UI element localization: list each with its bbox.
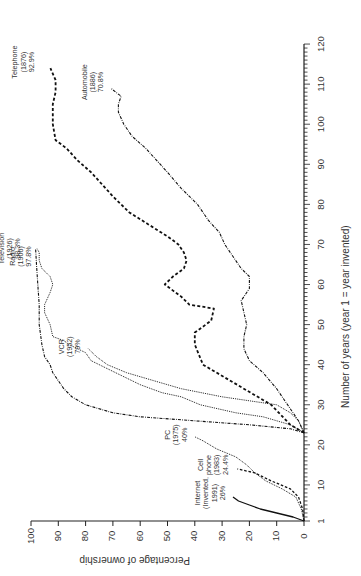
series-line-telephone: [50, 68, 304, 433]
x-tick-label: 60: [315, 279, 326, 290]
y-tick-label: 70: [106, 531, 117, 542]
svg-text:92.9%: 92.9%: [27, 51, 36, 72]
x-tick-label: 70: [315, 239, 326, 250]
series-label-automobile: Automobile(1886)70.8%: [80, 64, 105, 100]
x-tick-label: 20: [315, 440, 326, 451]
y-tick-label: 40: [188, 531, 199, 542]
x-tick-label: 10: [315, 480, 326, 491]
y-tick-label: 100: [25, 528, 36, 544]
y-tick-label: 80: [79, 531, 90, 542]
x-tick-label: 50: [315, 319, 326, 330]
series-label-telephone: Telephone(1876)92.9%: [10, 45, 35, 78]
x-tick-label: 120: [315, 36, 326, 52]
y-tick-label: 20: [243, 531, 254, 542]
series-line-automobile: [111, 88, 304, 433]
series-label-vcr: VCR(1952)79%: [57, 336, 82, 357]
svg-text:97.8%: 97.8%: [24, 246, 33, 267]
svg-text:26%: 26%: [218, 485, 227, 500]
series-labels: Telephone(1876)92.9%Automobile(1886)70.8…: [0, 45, 230, 508]
series-label-radio: Radio(1906)97.8%: [8, 246, 33, 267]
series-label-internet: Internet(Invented,1991)26%: [193, 477, 227, 509]
x-tick-label: 90: [315, 159, 326, 170]
series-line-cell-phone: [237, 469, 304, 521]
series-label-pc: PC(1975)40%: [163, 424, 188, 445]
svg-text:40%: 40%: [180, 427, 189, 442]
y-tick-label: 0: [298, 533, 309, 538]
chart-axes: 1102030405060708090100110120010203040506…: [25, 36, 351, 566]
y-tick-label: 50: [161, 531, 172, 542]
x-axis-title: Number of years (year 1 = year invented): [340, 225, 351, 408]
y-tick-label: 10: [270, 531, 281, 542]
series-line-pc: [195, 437, 304, 521]
svg-text:70.8%: 70.8%: [96, 71, 105, 92]
x-tick-label: 100: [315, 116, 326, 132]
x-tick-label: 80: [315, 199, 326, 210]
y-tick-label: 60: [134, 531, 145, 542]
series-line-vcr: [88, 349, 304, 433]
x-tick-label: 1: [315, 518, 326, 523]
y-tick-label: 30: [216, 531, 227, 542]
svg-text:24.4%: 24.4%: [221, 454, 230, 475]
ownership-chart: 1102030405060708090100110120010203040506…: [0, 0, 361, 576]
y-tick-label: 90: [52, 531, 63, 542]
series-label-cell-phone: Cellphone(1983)24.4%: [196, 454, 230, 475]
x-tick-label: 30: [315, 399, 326, 410]
svg-text:79%: 79%: [73, 339, 82, 354]
chart-series: [36, 68, 304, 521]
x-tick-label: 40: [315, 359, 326, 370]
series-line-internet: [233, 497, 304, 521]
x-tick-label: 110: [315, 77, 326, 92]
y-axis-title: Percentage of ownership: [79, 555, 190, 566]
